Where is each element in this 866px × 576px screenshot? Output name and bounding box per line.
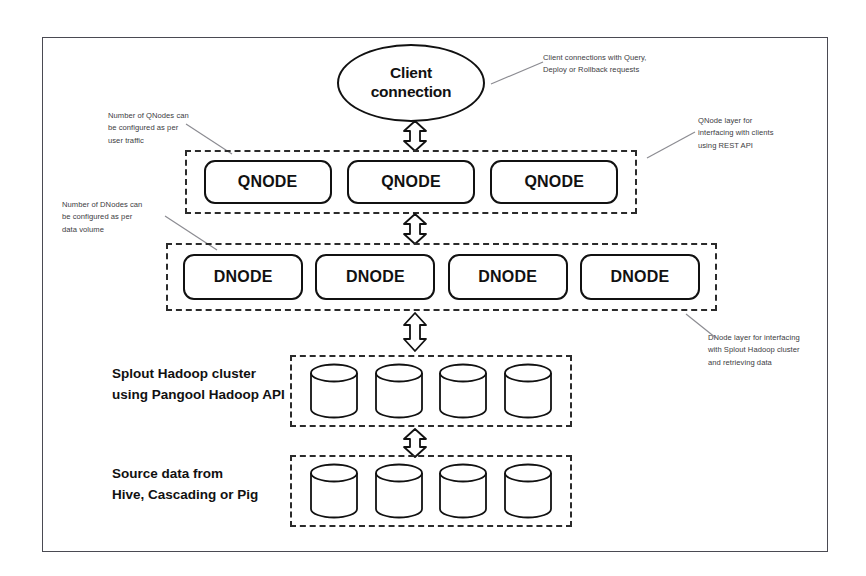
leader-line-dnode-right bbox=[684, 312, 718, 340]
dnode-box-1[interactable]: DNODE bbox=[183, 254, 303, 300]
client-to-qnode-arrow bbox=[402, 120, 428, 152]
annotation-client-connections: Client connections with Query, Deploy or… bbox=[543, 52, 693, 77]
qnode-box-3-label: QNODE bbox=[524, 173, 584, 191]
source-cylinder-row bbox=[292, 457, 570, 525]
source-database-cylinder-3 bbox=[438, 463, 488, 519]
source-database-cylinder-1 bbox=[309, 463, 359, 519]
dnode-box-3-label: DNODE bbox=[478, 268, 537, 286]
source-data-label-line1: Source data from bbox=[112, 464, 302, 485]
source-database-cylinder-4 bbox=[503, 463, 553, 519]
source-data-label: Source data from Hive, Cascading or Pig bbox=[112, 464, 302, 506]
hadoop-cluster-label-line2: using Pangool Hadoop API bbox=[112, 385, 292, 406]
dnode-layer-group: DNODE DNODE DNODE DNODE bbox=[166, 243, 717, 311]
leader-line-client bbox=[489, 60, 545, 86]
annotation-dnode-layer: DNode layer for interfacing with Splout … bbox=[708, 332, 838, 369]
annotation-dnode-right-line2: with Splout Hadoop cluster bbox=[708, 344, 838, 356]
source-database-cylinder-2 bbox=[374, 463, 424, 519]
qnode-box-2[interactable]: QNODE bbox=[347, 160, 475, 204]
annotation-client-line2: Deploy or Rollback requests bbox=[543, 64, 693, 76]
hadoop-cluster-group bbox=[290, 355, 572, 427]
annotation-qnode-right-line3: using REST API bbox=[698, 140, 808, 152]
hadoop-cylinder-row bbox=[292, 357, 570, 425]
hadoop-to-source-arrow bbox=[402, 428, 428, 458]
leader-line-qnode-right bbox=[645, 130, 697, 160]
client-connection-label-line1: Client bbox=[390, 64, 432, 81]
qnode-box-2-label: QNODE bbox=[381, 173, 441, 191]
qnode-box-3[interactable]: QNODE bbox=[490, 160, 618, 204]
dnode-row: DNODE DNODE DNODE DNODE bbox=[168, 245, 715, 309]
source-data-group bbox=[290, 455, 572, 527]
dnode-box-2-label: DNODE bbox=[346, 268, 405, 286]
dnode-box-4[interactable]: DNODE bbox=[580, 254, 700, 300]
qnode-box-1-label: QNODE bbox=[238, 173, 298, 191]
dnode-box-4-label: DNODE bbox=[610, 268, 669, 286]
hadoop-database-cylinder-4 bbox=[503, 363, 553, 419]
dnode-box-2[interactable]: DNODE bbox=[315, 254, 435, 300]
client-connection-node: Client connection bbox=[337, 44, 485, 122]
annotation-qnode-left-line1: Number of QNodes can bbox=[108, 110, 228, 122]
client-connection-label: Client connection bbox=[371, 64, 452, 102]
qnode-box-1[interactable]: QNODE bbox=[204, 160, 332, 204]
dnode-to-hadoop-arrow bbox=[402, 312, 428, 352]
source-data-label-line2: Hive, Cascading or Pig bbox=[112, 485, 302, 506]
client-connection-label-line2: connection bbox=[371, 83, 452, 100]
diagram-canvas: Client connection Client connections wit… bbox=[0, 0, 866, 576]
qnode-layer-group: QNODE QNODE QNODE bbox=[185, 150, 637, 214]
hadoop-database-cylinder-1 bbox=[309, 363, 359, 419]
hadoop-cluster-label-line1: Splout Hadoop cluster bbox=[112, 364, 292, 385]
annotation-qnode-right-line1: QNode layer for bbox=[698, 115, 808, 127]
annotation-dnode-right-line1: DNode layer for interfacing bbox=[708, 332, 838, 344]
annotation-dnode-left-line1: Number of DNodes can bbox=[62, 199, 187, 211]
hadoop-database-cylinder-2 bbox=[374, 363, 424, 419]
hadoop-cluster-label: Splout Hadoop cluster using Pangool Hado… bbox=[112, 364, 292, 406]
annotation-dnode-right-line3: and retrieving data bbox=[708, 357, 838, 369]
qnode-row: QNODE QNODE QNODE bbox=[187, 152, 635, 212]
dnode-box-1-label: DNODE bbox=[214, 268, 273, 286]
qnode-to-dnode-arrow bbox=[402, 213, 428, 245]
annotation-qnode-right-line2: interfacing with clients bbox=[698, 127, 808, 139]
annotation-qnode-layer: QNode layer for interfacing with clients… bbox=[698, 115, 808, 152]
hadoop-database-cylinder-3 bbox=[438, 363, 488, 419]
annotation-client-line1: Client connections with Query, bbox=[543, 52, 693, 64]
dnode-box-3[interactable]: DNODE bbox=[448, 254, 568, 300]
